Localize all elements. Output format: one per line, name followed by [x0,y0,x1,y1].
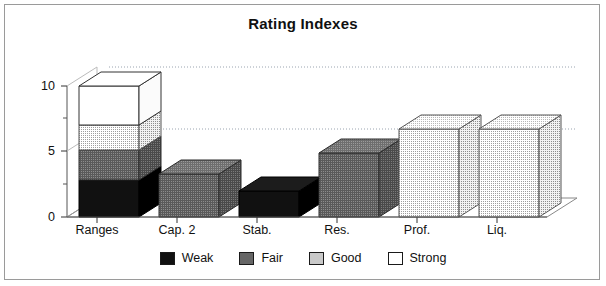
x-tick-label-liq: Liq. [455,223,539,237]
legend-label-fair: Fair [261,251,283,265]
chart-legend: Weak Fair Good Strong [5,251,601,265]
x-tick-label-cap-2: Cap. 2 [135,223,219,237]
bar-ranges[interactable] [79,72,161,217]
legend-label-good: Good [331,251,362,265]
legend-swatch-weak [160,252,175,265]
x-tick-label-res: Res. [295,223,379,237]
legend-item-good[interactable]: Good [309,251,362,265]
y-tick-label-10: 10 [29,79,55,93]
legend-label-strong: Strong [410,251,447,265]
legend-item-fair[interactable]: Fair [239,251,283,265]
bar-cap-2[interactable] [159,160,241,217]
legend-label-weak: Weak [182,251,214,265]
legend-swatch-good [309,252,324,265]
legend-item-weak[interactable]: Weak [160,251,214,265]
chart-svg [5,5,601,281]
legend-swatch-fair [239,252,254,265]
bar-prof[interactable] [399,115,481,217]
x-tick-label-ranges: Ranges [55,223,139,237]
x-tick-label-prof: Prof. [375,223,459,237]
y-tick-label-0: 0 [29,210,55,224]
bar-stab[interactable] [239,177,321,217]
plot-area: 10 5 0 Ranges Cap. 2 Stab. Res. Prof. Li… [5,5,601,281]
legend-swatch-strong [388,252,403,265]
y-tick-label-5: 5 [29,144,55,158]
chart-frame: Rating Indexes [4,4,600,280]
x-tick-label-stab: Stab. [215,223,299,237]
legend-item-strong[interactable]: Strong [388,251,447,265]
bar-liq[interactable] [479,115,561,217]
bar-res[interactable] [319,139,401,217]
